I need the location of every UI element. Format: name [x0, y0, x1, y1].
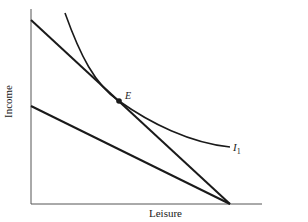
y-axis-label: Income	[2, 85, 14, 118]
curve-label: I1	[233, 141, 241, 156]
lower-budget-line	[31, 106, 230, 204]
point-label: E	[125, 90, 131, 101]
curve-label-subscript: 1	[237, 147, 241, 156]
upper-budget-line	[31, 20, 230, 204]
diagram-canvas	[0, 0, 308, 222]
x-axis-label: Leisure	[149, 207, 182, 219]
tangency-point	[116, 98, 122, 104]
